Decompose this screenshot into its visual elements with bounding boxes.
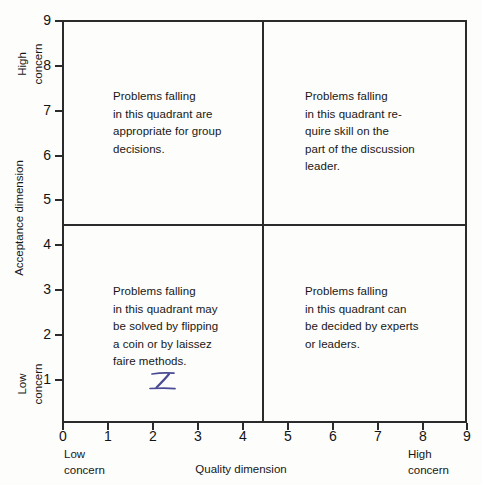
y-tick-2 <box>55 334 62 336</box>
x-tick-label-1: 1 <box>98 428 118 444</box>
x-axis-high-concern-label: High concern <box>408 446 449 478</box>
clipped-title-remnant <box>96 0 396 1</box>
x-tick-label-7: 7 <box>368 428 388 444</box>
quadrant-text-bottom-left: Problems falling in this quadrant may be… <box>113 283 218 371</box>
quadrant-text-bottom-right: Problems falling in this quadrant can be… <box>305 283 419 353</box>
y-tick-label-4: 4 <box>33 236 51 252</box>
y-tick-label-3: 3 <box>33 281 51 297</box>
x-tick-label-4: 4 <box>233 428 253 444</box>
x-tick-label-9: 9 <box>457 428 477 444</box>
x-tick-label-2: 2 <box>143 428 163 444</box>
handwritten-i-annotation <box>146 369 180 395</box>
quadrant-divider-horizontal <box>62 224 467 226</box>
quadrant-divider-vertical <box>262 20 264 423</box>
y-tick-6 <box>55 155 62 157</box>
y-tick-label-5: 5 <box>33 191 51 207</box>
x-tick-label-5: 5 <box>278 428 298 444</box>
y-axis-title: Acceptance dimension <box>13 133 25 303</box>
x-tick-label-3: 3 <box>188 428 208 444</box>
y-tick-9 <box>55 20 62 22</box>
y-tick-5 <box>55 199 62 201</box>
y-axis-high-concern-label: High concern <box>14 24 46 104</box>
quadrant-chart-figure: Problems falling in this quadrant are ap… <box>0 0 482 485</box>
y-tick-label-2: 2 <box>33 326 51 342</box>
y-axis-low-concern-label: Low concern <box>14 344 46 424</box>
x-tick-label-8: 8 <box>413 428 433 444</box>
x-tick-label-0: 0 <box>53 428 73 444</box>
quadrant-text-top-left: Problems falling in this quadrant are ap… <box>113 88 221 158</box>
y-tick-label-6: 6 <box>33 147 51 163</box>
y-tick-1 <box>55 379 62 381</box>
x-tick-label-6: 6 <box>323 428 343 444</box>
y-tick-label-7: 7 <box>33 102 51 118</box>
y-tick-8 <box>55 65 62 67</box>
y-tick-7 <box>55 110 62 112</box>
quadrant-text-top-right: Problems falling in this quadrant re- qu… <box>305 88 415 176</box>
y-tick-3 <box>55 289 62 291</box>
y-tick-4 <box>55 244 62 246</box>
x-axis-low-concern-label: Low concern <box>64 446 105 478</box>
